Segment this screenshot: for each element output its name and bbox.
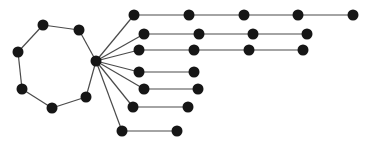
- edge-c6-c5: [18, 52, 22, 89]
- node-c4: [47, 103, 58, 114]
- edge-hub-g1: [96, 61, 133, 107]
- node-f2: [193, 84, 204, 95]
- node-h2: [172, 126, 183, 137]
- edge-c1-c6: [18, 25, 43, 52]
- node-g2: [183, 102, 194, 113]
- node-e2: [189, 67, 200, 78]
- node-d2: [189, 45, 200, 56]
- edge-hub-a1: [96, 15, 134, 61]
- node-c6: [13, 47, 24, 58]
- node-b4: [302, 29, 313, 40]
- node-f1: [139, 84, 150, 95]
- node-d3: [244, 45, 255, 56]
- edge-hub-h1: [96, 61, 122, 131]
- edge-hub-d1: [96, 50, 139, 61]
- edge-hub-e1: [96, 61, 139, 72]
- node-d4: [298, 45, 309, 56]
- node-e1: [134, 67, 145, 78]
- node-a5: [348, 10, 359, 21]
- node-a3: [239, 10, 250, 21]
- node-a2: [184, 10, 195, 21]
- node-b2: [194, 29, 205, 40]
- node-c5: [17, 84, 28, 95]
- edge-c3-hub: [86, 61, 96, 97]
- node-c1: [38, 20, 49, 31]
- node-c3: [81, 92, 92, 103]
- node-c2: [74, 25, 85, 36]
- node-h1: [117, 126, 128, 137]
- node-b3: [248, 29, 259, 40]
- node-d1: [134, 45, 145, 56]
- node-b1: [139, 29, 150, 40]
- graph-diagram: [0, 0, 374, 144]
- node-a4: [293, 10, 304, 21]
- node-a1: [129, 10, 140, 21]
- node-g1: [128, 102, 139, 113]
- node-hub: [91, 56, 102, 67]
